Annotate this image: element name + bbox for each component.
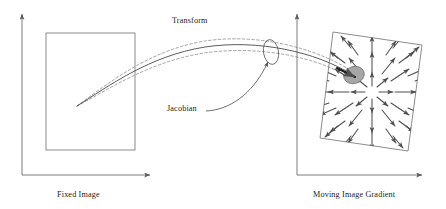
moving-image-gradient-panel: [297, 14, 430, 175]
jacobian-label: Jacobian: [167, 104, 197, 113]
fixed-image-rect: [46, 33, 135, 150]
transform-curve-upper: [77, 39, 350, 106]
moving-image-gradient-caption: Moving Image Gradient: [313, 190, 395, 199]
fixed-image-axes: [22, 14, 150, 175]
transform-label: Transform: [172, 16, 208, 25]
transform-curve: [77, 45, 351, 106]
transform-curves: [77, 39, 351, 106]
diagram-canvas: [0, 0, 446, 209]
fixed-image-panel: [22, 14, 150, 175]
transform-curve-lower: [77, 51, 350, 106]
gradient-arrow-field: [314, 36, 430, 150]
moving-image-axes: [297, 14, 422, 175]
diagram-figure: Transform Jacobian Fixed Image Moving Im…: [0, 0, 446, 209]
fixed-image-caption: Fixed Image: [57, 190, 100, 199]
jacobian-leader: [206, 62, 268, 111]
